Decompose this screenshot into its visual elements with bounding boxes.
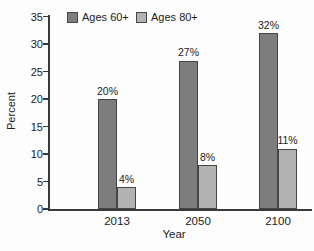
x-axis-title: Year (144, 228, 204, 240)
y-tick-label-5: 5 (13, 176, 43, 188)
legend-label-ages-80: Ages 80+ (151, 11, 198, 24)
y-tick-mark (43, 16, 48, 18)
y-tick-label-10: 10 (13, 148, 43, 160)
y-tick-label-30: 30 (13, 38, 43, 50)
bar-value-label: 11% (268, 134, 308, 147)
bar-value-label: 20% (88, 85, 128, 98)
legend-label-ages-60: Ages 60+ (82, 11, 129, 24)
y-axis-title: Percent (4, 76, 18, 146)
y-tick-mark (43, 126, 48, 128)
bar-chart-figure: Ages 60+ Ages 80+ Percent Year 051015202… (0, 0, 314, 251)
bar-ages-60--2100 (259, 33, 278, 209)
bar-value-label: 4% (107, 173, 147, 186)
y-tick-mark (43, 181, 48, 183)
x-category-label-2100: 2100 (248, 215, 308, 227)
y-tick-mark (43, 71, 48, 73)
x-axis-line (48, 209, 312, 211)
y-tick-label-20: 20 (13, 93, 43, 105)
y-tick-mark (43, 208, 48, 210)
y-tick-mark (43, 98, 48, 100)
y-tick-label-0: 0 (13, 203, 43, 215)
bar-value-label: 8% (188, 151, 228, 164)
legend-swatch-ages-80 (136, 12, 147, 23)
y-tick-mark (43, 43, 48, 45)
bar-value-label: 27% (169, 46, 209, 59)
bar-ages-60--2050 (179, 61, 198, 210)
x-category-label-2013: 2013 (87, 215, 147, 227)
bar-value-label: 32% (249, 19, 289, 32)
y-tick-mark (43, 153, 48, 155)
bar-ages-60--2013 (98, 99, 117, 209)
bar-ages-80--2050 (198, 165, 217, 209)
legend-swatch-ages-60 (67, 12, 78, 23)
y-axis-line (48, 15, 50, 211)
y-tick-label-15: 15 (13, 121, 43, 133)
bar-ages-80--2100 (278, 149, 297, 210)
x-category-label-2050: 2050 (168, 215, 228, 227)
y-tick-label-25: 25 (13, 66, 43, 78)
y-tick-label-35: 35 (13, 11, 43, 23)
bar-ages-80--2013 (117, 187, 136, 209)
